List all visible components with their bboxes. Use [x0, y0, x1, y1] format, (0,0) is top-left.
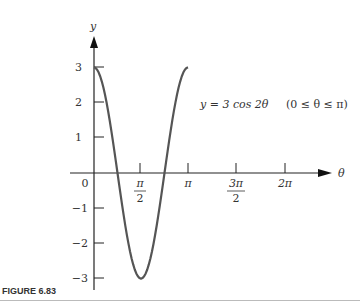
- y-tick-label: 3: [75, 61, 82, 74]
- x-tick-label-num: π: [135, 177, 144, 190]
- x-axis-label: θ: [338, 167, 345, 180]
- x-tick-label: 2π: [277, 177, 293, 190]
- x-ticks: [140, 163, 285, 173]
- x-axis-arrow-icon: [318, 169, 332, 177]
- x-tick-label-den: 2: [233, 192, 240, 205]
- y-tick-label: 2: [75, 96, 82, 109]
- y-tick-label: −2: [72, 237, 88, 250]
- y-tick-label: 1: [75, 131, 82, 144]
- x-tick-label: π: [183, 177, 192, 190]
- y-tick-label: −1: [72, 202, 88, 215]
- domain-label: (0 ≤ θ ≤ π): [286, 98, 348, 111]
- equation-text: y = 3 cos 2θ: [199, 98, 269, 111]
- y-axis-label: y: [89, 20, 97, 33]
- plot-area: y θ 3 2 1 −1 −2 −3 0 π 2 π 3π 2 2π y = 3…: [0, 0, 360, 308]
- divider: [0, 300, 360, 301]
- y-tick-label: −3: [72, 272, 88, 285]
- origin-label: 0: [82, 177, 89, 190]
- x-tick-label-num: 3π: [229, 177, 244, 190]
- y-axis-arrow-icon: [90, 36, 98, 48]
- equation-label: y = 3 cos 2θ: [199, 98, 269, 111]
- figure-caption: FIGURE 6.83: [2, 286, 56, 296]
- x-tick-label-den: 2: [137, 192, 144, 205]
